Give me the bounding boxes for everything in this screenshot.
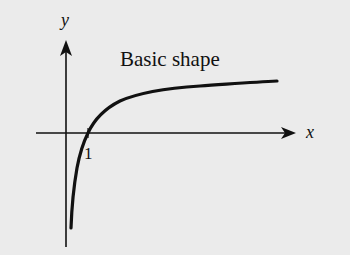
chart-plot: [0, 0, 350, 266]
chart-title: Basic shape: [120, 47, 220, 72]
log-curve: [71, 81, 277, 228]
chart-figure: y x 1 Basic shape: [0, 0, 350, 266]
x-tick-label-1: 1: [84, 144, 93, 164]
y-axis-label: y: [61, 10, 69, 31]
x-axis-label: x: [306, 122, 314, 143]
